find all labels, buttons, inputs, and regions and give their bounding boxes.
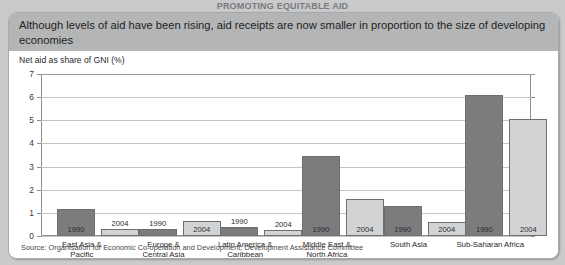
bar-group: 19902004Latin America &Caribbean: [204, 74, 286, 236]
y-tick-mark-0: [37, 236, 41, 237]
category-label-line: Sub-Saharan Africa: [449, 240, 531, 250]
x-axis-category-label: Sub-Saharan Africa: [449, 240, 531, 250]
bar-groups: 19902004East Asia &Pacific19902004Europe…: [41, 74, 531, 236]
y-tick-label-6: 6: [29, 92, 34, 102]
bar-group: 19902004Middle East &North Africa: [286, 74, 368, 236]
chart-axes: 01234567 19902004East Asia &Pacific19902…: [41, 74, 531, 236]
bar-1990[interactable]: [465, 95, 503, 236]
bar-label-1990: 1990: [139, 219, 177, 228]
bar-group: 19902004East Asia &Pacific: [41, 74, 123, 236]
bar-2004[interactable]: [509, 119, 547, 236]
bar-group: 19902004Sub-Saharan Africa: [449, 74, 531, 236]
gridline-0: [41, 236, 531, 237]
x-axis-category-label: South Asia: [368, 240, 450, 250]
bar-label-2004: 2004: [509, 225, 547, 234]
chart-panel: Although levels of aid have been rising,…: [8, 12, 559, 259]
bar-label-1990: 1990: [302, 225, 340, 234]
bar-group: 19902004South Asia: [368, 74, 450, 236]
y-tick-label-1: 1: [29, 208, 34, 218]
bar-1990[interactable]: [139, 229, 177, 236]
bar-label-1990: 1990: [220, 217, 258, 226]
y-tick-mark-right-7: [531, 74, 535, 75]
y-tick-mark-right-6: [531, 97, 535, 98]
y-tick-label-7: 7: [29, 69, 34, 79]
y-axis-title: Net aid as share of GNI (%): [19, 55, 125, 65]
bar-label-1990: 1990: [465, 225, 503, 234]
source-note: Source: Organisation for Economic Co-ope…: [21, 243, 363, 252]
category-label-line: South Asia: [368, 240, 450, 250]
bar-group: 19902004Europe &Central Asia: [123, 74, 205, 236]
y-tick-mark-right-0: [531, 236, 535, 237]
plot-area-wrapper: Net aid as share of GNI (%) 01234567 199…: [9, 51, 558, 258]
y-tick-label-0: 0: [29, 231, 34, 241]
bar-label-1990: 1990: [384, 225, 422, 234]
bar-label-1990: 1990: [57, 225, 95, 234]
y-tick-label-2: 2: [29, 185, 34, 195]
bar-1990[interactable]: [220, 227, 258, 236]
y-tick-label-3: 3: [29, 162, 34, 172]
y-tick-label-4: 4: [29, 138, 34, 148]
clipped-page-header: PROMOTING EQUITABLE AID: [0, 0, 565, 11]
y-tick-label-5: 5: [29, 115, 34, 125]
chart-title-banner: Although levels of aid have been rising,…: [9, 13, 558, 51]
figure-container: PROMOTING EQUITABLE AID Although levels …: [0, 0, 565, 265]
